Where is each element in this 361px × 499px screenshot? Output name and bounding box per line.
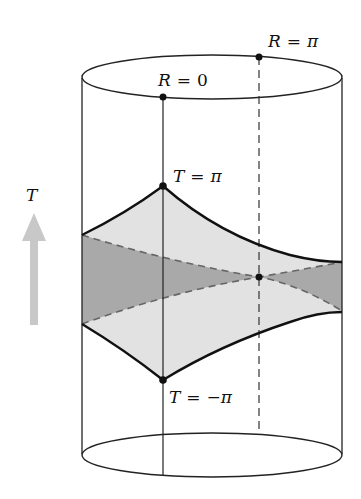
cylinder-bottom-ellipse [82,433,342,477]
t-pi-point [159,182,167,190]
t-neg-pi-point [159,376,167,384]
label-r-zero: R=0 [157,70,208,90]
intersection-point [256,274,263,281]
label-r-pi: R=π [267,31,319,51]
r-pi-point [256,54,263,61]
r-zero-point [160,94,167,101]
label-t-neg-pi: T=−π [169,387,233,407]
time-arrow-icon [22,213,46,325]
ads-cylinder-diagram: T R=π R=0 T=π T=−π [0,0,361,499]
cylinder-top-ellipse [82,55,342,99]
time-axis-label: T [26,185,39,205]
label-t-pi: T=π [173,166,223,186]
